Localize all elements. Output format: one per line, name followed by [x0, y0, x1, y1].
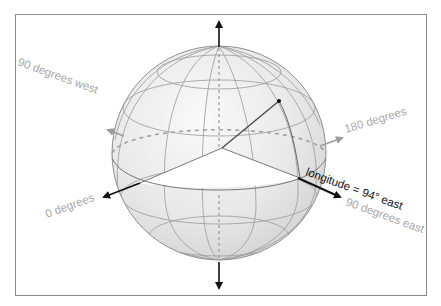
point-on-sphere	[277, 99, 281, 103]
longitude-diagram: 90 degrees west 180 degrees 0 degrees lo…	[0, 0, 441, 306]
sphere	[112, 46, 326, 260]
